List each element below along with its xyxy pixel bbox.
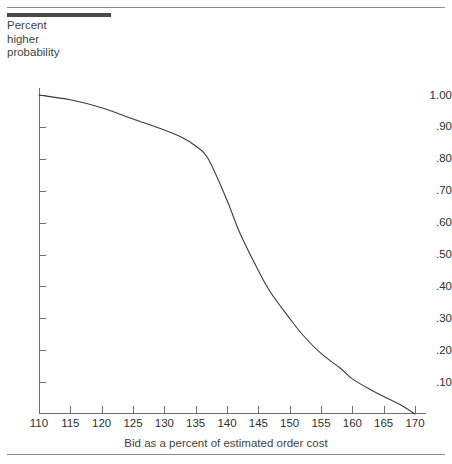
figure-container: probability of a higher bid as a percent…: [0, 0, 452, 464]
x-axis-title: Bid as a percent of estimated order cost: [0, 437, 452, 449]
probability-curve: [39, 95, 415, 414]
bottom-rule: [7, 454, 445, 455]
plot-curve-layer: [0, 0, 452, 464]
